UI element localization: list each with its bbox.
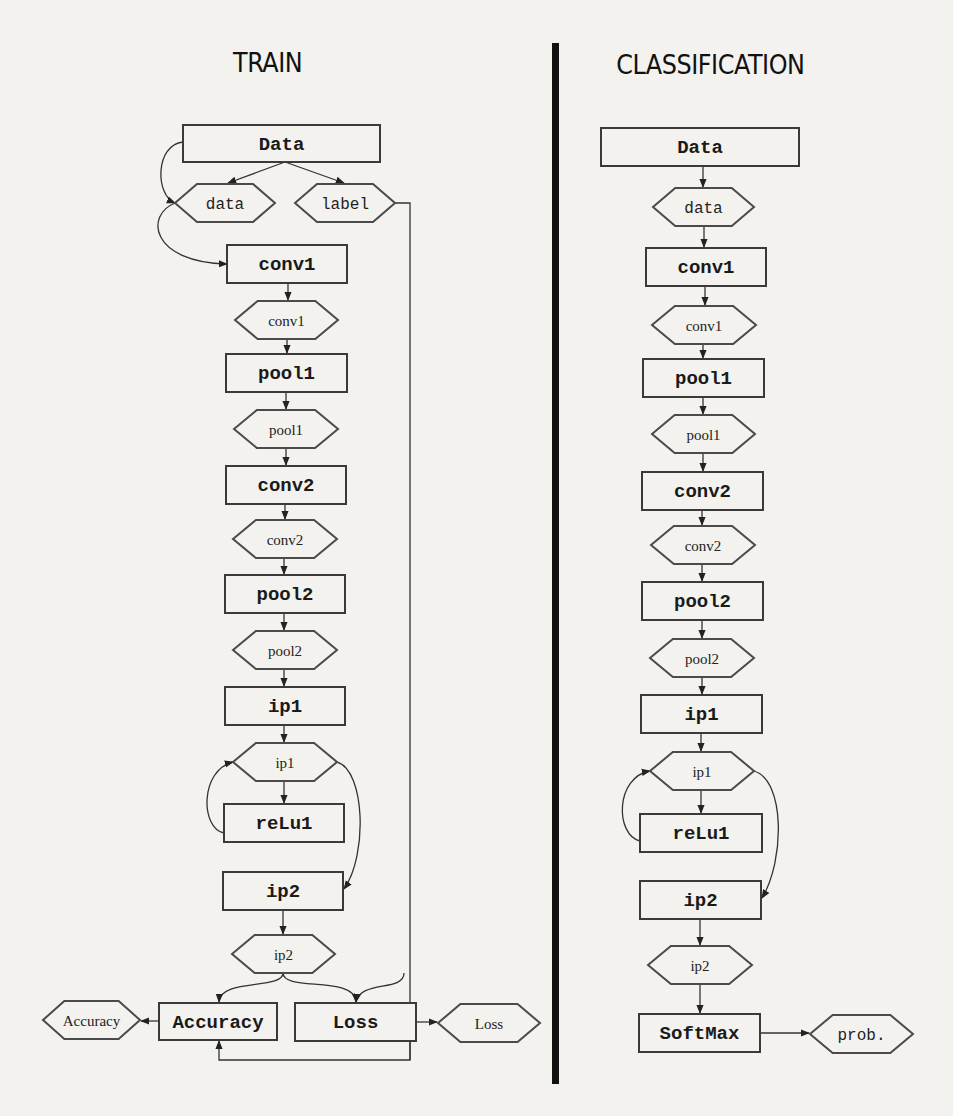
node-label: ip1 xyxy=(268,696,302,718)
node-label: ip1 xyxy=(692,764,711,780)
layer-box-t_conv1_box: conv1 xyxy=(227,245,347,283)
connector-arrow xyxy=(283,973,356,1002)
blob-hex-c_data_hex: data xyxy=(653,188,754,226)
connector-arrow xyxy=(219,973,283,1002)
layer-box-t_relu1_box: reLu1 xyxy=(224,804,344,842)
node-label: Accuracy xyxy=(63,1013,121,1029)
layer-box-c_conv2_box: conv2 xyxy=(642,472,763,510)
node-label: prob. xyxy=(837,1027,885,1045)
node-label: data xyxy=(206,196,245,214)
blob-hex-t_conv2_hex: conv2 xyxy=(233,520,337,558)
node-label: ip2 xyxy=(266,881,300,903)
classification-network-nodes: Datadataconv1conv1pool1pool1conv2conv2po… xyxy=(601,128,913,1053)
node-label: Data xyxy=(677,137,723,159)
node-label: Loss xyxy=(333,1012,379,1034)
blob-hex-t_pool1_hex: pool1 xyxy=(234,410,338,448)
layer-box-t_ip2_box: ip2 xyxy=(223,872,343,910)
node-label: pool1 xyxy=(269,422,303,438)
layer-box-c_pool1_box: pool1 xyxy=(643,359,764,397)
connector-arrow xyxy=(395,203,410,1060)
layer-box-c_ip2_box: ip2 xyxy=(640,881,761,919)
node-label: reLu1 xyxy=(672,823,729,845)
node-label: pool2 xyxy=(685,651,719,667)
node-label: ip2 xyxy=(274,947,293,963)
blob-hex-c_conv1_hex: conv1 xyxy=(652,306,756,344)
blob-hex-t_loss_hex: Loss xyxy=(438,1004,540,1042)
blob-hex-t_data_hex: data xyxy=(175,184,275,222)
node-label: conv2 xyxy=(257,475,314,497)
node-label: pool2 xyxy=(674,591,731,613)
blob-hex-t_label_hex: label xyxy=(295,184,395,222)
node-label: conv1 xyxy=(677,257,734,279)
train-title: TRAIN xyxy=(233,48,302,78)
layer-box-c_softmax_box: SoftMax xyxy=(639,1014,760,1052)
node-label: conv2 xyxy=(685,538,722,554)
layer-box-c_relu1_box: reLu1 xyxy=(640,814,762,852)
blob-hex-c_prob_hex: prob. xyxy=(810,1015,913,1053)
blob-hex-c_pool2_hex: pool2 xyxy=(650,639,754,677)
node-label: pool1 xyxy=(686,427,720,443)
node-label: ip1 xyxy=(275,755,294,771)
node-label: conv1 xyxy=(268,313,305,329)
node-label: Loss xyxy=(475,1016,504,1032)
blob-hex-c_pool1_hex: pool1 xyxy=(652,415,755,453)
node-label: SoftMax xyxy=(660,1023,740,1045)
layer-box-c_conv1_box: conv1 xyxy=(646,248,766,286)
node-label: conv2 xyxy=(674,481,731,503)
node-label: Accuracy xyxy=(172,1012,264,1034)
layer-box-c_data_box: Data xyxy=(601,128,799,166)
node-label: data xyxy=(684,200,723,218)
layer-box-t_conv2_box: conv2 xyxy=(226,466,346,504)
node-label: conv1 xyxy=(258,254,315,276)
node-label: ip2 xyxy=(683,890,717,912)
node-label: label xyxy=(321,196,369,214)
layer-box-c_pool2_box: pool2 xyxy=(642,582,763,620)
connector-arrow xyxy=(356,973,404,1002)
connector-arrow xyxy=(219,1041,410,1060)
node-label: pool2 xyxy=(268,643,302,659)
blob-hex-t_pool2_hex: pool2 xyxy=(233,631,337,669)
blob-hex-t_conv1_hex: conv1 xyxy=(235,301,338,339)
layer-box-t_pool2_box: pool2 xyxy=(225,575,345,613)
blob-hex-c_ip2_hex: ip2 xyxy=(648,946,752,984)
layer-box-t_accuracy_box: Accuracy xyxy=(159,1003,277,1040)
node-label: reLu1 xyxy=(255,813,312,835)
flowchart-canvas: Datadatalabelconv1conv1pool1pool1conv2co… xyxy=(0,0,953,1116)
layer-box-t_pool1_box: pool1 xyxy=(226,354,347,392)
layer-box-c_ip1_box: ip1 xyxy=(641,695,762,733)
connector-arrow xyxy=(285,162,344,183)
blob-hex-t_ip2_hex: ip2 xyxy=(232,935,335,973)
node-label: ip2 xyxy=(690,958,709,974)
blob-hex-c_ip1_hex: ip1 xyxy=(650,752,754,790)
blob-hex-c_conv2_hex: conv2 xyxy=(651,526,755,564)
node-label: pool1 xyxy=(258,363,315,385)
layer-box-t_ip1_box: ip1 xyxy=(225,687,345,725)
blob-hex-t_accuracy_hex: Accuracy xyxy=(43,1001,140,1039)
node-label: pool2 xyxy=(256,584,313,606)
blob-hex-t_ip1_hex: ip1 xyxy=(233,743,337,781)
section-divider xyxy=(552,43,559,1084)
node-label: conv2 xyxy=(267,532,304,548)
layer-box-t_loss_box: Loss xyxy=(295,1003,416,1041)
node-label: Data xyxy=(259,134,305,156)
connector-arrow xyxy=(161,142,183,203)
layer-box-t_data_box: Data xyxy=(183,125,380,162)
train-network-nodes: Datadatalabelconv1conv1pool1pool1conv2co… xyxy=(43,125,540,1042)
node-label: pool1 xyxy=(675,368,732,390)
node-label: conv1 xyxy=(686,318,723,334)
classification-title: CLASSIFICATION xyxy=(616,50,804,80)
node-label: ip1 xyxy=(684,704,718,726)
connector-arrow xyxy=(228,162,285,183)
